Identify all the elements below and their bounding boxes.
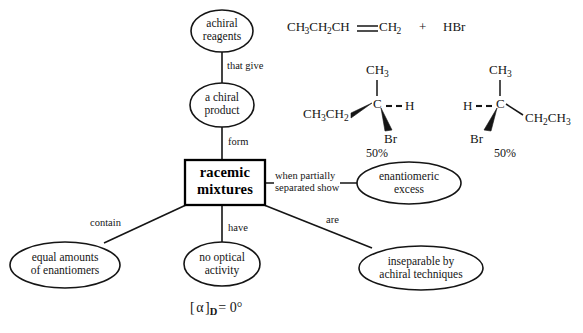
substrate-ch-2: CH xyxy=(309,19,327,34)
left-enantiomer-methyl-label: CH3 xyxy=(366,62,389,79)
node-inseparable[interactable] xyxy=(359,246,483,290)
right-enantiomer-methyl-label: CH3 xyxy=(489,62,512,79)
substrate-sub-3: 2 xyxy=(397,26,402,36)
rotation-alpha-symbol: α xyxy=(195,300,205,315)
left-enantiomer-center-carbon: C xyxy=(373,96,382,112)
rotation-bracket-open: [ xyxy=(190,300,195,315)
node-no-optical-activity[interactable] xyxy=(184,242,260,286)
edge-label-have: have xyxy=(227,222,249,234)
bond-left-enantiomer-to-bromine-wedge xyxy=(381,108,392,131)
right-enantiomer-bromine-label: Br xyxy=(470,131,483,147)
left-enantiomer-yield: 50% xyxy=(366,146,388,161)
substrate-ch-4: CH xyxy=(379,19,397,34)
rotation-value: = 0° xyxy=(217,300,242,315)
left-enantiomer-ethyl-label: CH3CH2 xyxy=(303,106,349,123)
left-ethyl-ch-a: CH xyxy=(303,106,321,121)
right-ethyl-ch-a: CH xyxy=(525,110,543,125)
right-enantiomer-yield: 50% xyxy=(494,146,516,161)
reaction-reagent-hbr: HBr xyxy=(443,19,465,35)
reaction-substrate-terminal-ch2: CH2 xyxy=(379,19,401,36)
reaction-plus-sign: + xyxy=(419,19,426,35)
node-chiral-product[interactable] xyxy=(190,83,254,127)
right-methyl-ch: CH xyxy=(489,62,507,77)
right-ethyl-ch-b: CH xyxy=(548,110,566,125)
edge-label-that-give: that give xyxy=(226,60,264,72)
node-achiral-reagents[interactable] xyxy=(191,10,253,52)
edge-racemic-to-inseparable xyxy=(264,205,372,248)
edge-label-when-partially-separated-show: when partially separated show xyxy=(274,170,340,194)
right-methyl-sub: 3 xyxy=(507,69,512,79)
right-enantiomer-center-carbon: C xyxy=(496,96,505,112)
racemic-mixtures-line-2: mixtures xyxy=(185,181,265,198)
left-methyl-ch: CH xyxy=(366,62,384,77)
node-equal-amounts[interactable] xyxy=(10,242,120,288)
node-racemic-mixtures-label: racemic mixtures xyxy=(185,164,265,198)
edge-label-are: are xyxy=(325,214,340,226)
edge-label-contain: contain xyxy=(89,217,122,229)
right-ethyl-sub-b: 3 xyxy=(566,117,571,127)
diagram-canvas: achiral reagents a chiral product racemi… xyxy=(0,0,583,333)
left-methyl-sub: 3 xyxy=(384,69,389,79)
node-enantiomeric-excess[interactable] xyxy=(357,162,461,204)
left-enantiomer-hydrogen-label: H xyxy=(405,98,414,114)
right-enantiomer-ethyl-label: CH2CH3 xyxy=(525,110,571,127)
concept-map-svg xyxy=(0,0,583,333)
left-enantiomer-bromine-label: Br xyxy=(384,131,397,147)
bond-right-enantiomer-to-ethyl xyxy=(506,104,523,115)
substrate-ch-1: CH xyxy=(287,19,305,34)
edge-label-form: form xyxy=(227,136,249,148)
right-enantiomer-hydrogen-label: H xyxy=(463,98,472,114)
left-ethyl-sub-b: 2 xyxy=(344,113,349,123)
when-partially-line-2: separated show xyxy=(275,182,339,194)
left-ethyl-ch-b: CH xyxy=(326,106,344,121)
specific-rotation-annotation: [α]D= 0° xyxy=(190,300,242,317)
racemic-mixtures-line-1: racemic xyxy=(185,164,265,181)
substrate-ch-3: CH xyxy=(332,19,350,34)
bond-left-enantiomer-to-ethyl-wedge xyxy=(351,103,372,118)
when-partially-line-1: when partially xyxy=(275,170,339,182)
reaction-substrate-formula: CH3CH2CH xyxy=(287,19,350,36)
